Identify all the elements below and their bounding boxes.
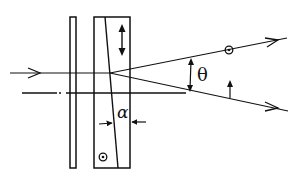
incident-ray (10, 68, 110, 78)
wedge-angle: α (99, 102, 146, 124)
alpha-label: α (117, 102, 129, 122)
optical-diagram: α θ (0, 0, 301, 177)
divergence-angle: θ (187, 58, 208, 92)
theta-label: θ (197, 64, 208, 85)
double-arrow-icon (119, 24, 126, 56)
circle-dot-icon (99, 153, 107, 161)
